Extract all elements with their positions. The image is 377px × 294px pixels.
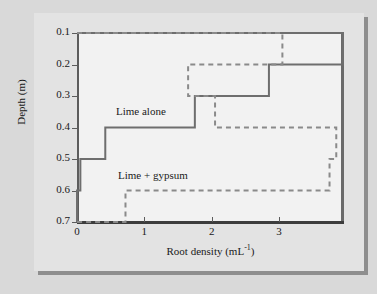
x-tick-label: 0 (62, 225, 92, 237)
y-tick-label: 0.1 (40, 25, 70, 37)
y-tick-mark (72, 191, 77, 192)
y-tick-mark (72, 96, 77, 97)
x-tick-mark (279, 217, 280, 222)
x-tick-mark (77, 217, 78, 222)
y-tick-label: 0.2 (40, 57, 70, 69)
x-axis-spine (77, 221, 344, 224)
y-tick-mark (72, 33, 77, 34)
series-annotation-lime-alone: Lime alone (114, 105, 168, 117)
figure-root: 0.10.20.30.40.50.60.7 0123 Depth (m) Roo… (0, 0, 377, 294)
y-axis-label: Depth (m) (15, 57, 27, 147)
x-axis-label-main: Root density (mL (167, 245, 245, 257)
x-tick-label: 2 (197, 225, 227, 237)
x-tick-mark (144, 217, 145, 222)
x-tick-label: 1 (129, 225, 159, 237)
y-tick-label: 0.6 (40, 183, 70, 195)
y-tick-label: 0.4 (40, 120, 70, 132)
x-axis-label: Root density (mL-1) (77, 243, 344, 257)
x-tick-mark (212, 217, 213, 222)
y-tick-mark (72, 128, 77, 129)
series-annotation-lime-gypsum: Lime + gypsum (116, 169, 190, 181)
x-tick-label: 3 (264, 225, 294, 237)
y-tick-mark (72, 159, 77, 160)
x-axis-label-exponent: -1 (244, 243, 251, 252)
plot-area (77, 33, 343, 222)
plot-right-border (341, 33, 344, 223)
y-tick-label: 0.5 (40, 151, 70, 163)
y-tick-mark (72, 222, 77, 223)
y-tick-label: 0.3 (40, 88, 70, 100)
x-axis-label-tail: ) (251, 245, 255, 257)
y-tick-mark (72, 65, 77, 66)
y-axis-spine (77, 33, 79, 223)
